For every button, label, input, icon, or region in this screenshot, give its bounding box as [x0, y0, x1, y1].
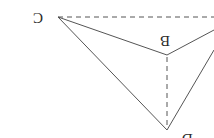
edge-b-right	[167, 30, 214, 55]
vertex-label-c: C	[33, 10, 43, 25]
edge-c-d	[58, 17, 167, 130]
vertex-label-b: B	[160, 33, 170, 48]
edge-d-right	[167, 50, 214, 130]
edge-c-b	[58, 17, 167, 55]
vertex-label-d: D	[182, 131, 193, 138]
